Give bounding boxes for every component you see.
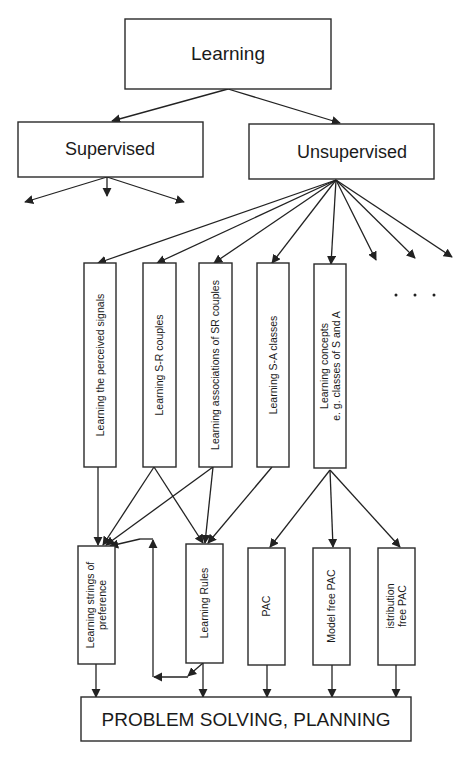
node-sr-couples: Learning S-R couples	[143, 263, 176, 467]
node-strings-preference: Learning strings of preference	[78, 546, 115, 664]
node-strings-preference-label-line1: Learning strings of	[84, 562, 96, 648]
node-strings-preference-label-line2: preference	[96, 580, 108, 630]
node-pac: PAC	[248, 548, 285, 665]
node-sa-classes: Learning S-A classes	[257, 263, 289, 467]
ellipsis	[395, 294, 436, 297]
node-concepts-label-line1: Learning concepts	[318, 323, 330, 409]
node-perceived-signals: Learning the perceived signals	[84, 263, 116, 467]
node-rules-label: Learning Rules	[198, 568, 210, 639]
node-model-free-pac-label: Model free PAC	[325, 569, 337, 643]
node-sa-classes-label: Learning S-A classes	[267, 316, 279, 415]
node-learning-label: Learning	[191, 43, 265, 64]
node-learning: Learning	[125, 19, 331, 89]
node-problem-solving-label: PROBLEM SOLVING, PLANNING	[102, 709, 391, 730]
node-pac-label: PAC	[260, 595, 272, 616]
learning-taxonomy-diagram: Learning Supervised Unsupervised Learnin…	[0, 0, 473, 757]
node-distribution-free-pac-label-line1: istribution	[384, 583, 396, 628]
node-sr-associations-label: Learning associations of SR couples	[209, 280, 221, 450]
node-concepts-label-line2: e. g. classes of S and A	[330, 311, 342, 421]
node-rules: Learning Rules	[186, 544, 223, 663]
node-distribution-free-pac: istribution free PAC	[378, 548, 415, 665]
node-problem-solving: PROBLEM SOLVING, PLANNING	[81, 697, 411, 741]
node-supervised: Supervised	[18, 122, 203, 177]
node-model-free-pac: Model free PAC	[313, 548, 350, 665]
node-concepts: Learning concepts e. g. classes of S and…	[314, 264, 346, 468]
node-sr-couples-label: Learning S-R couples	[153, 315, 165, 416]
node-unsupervised-label: Unsupervised	[297, 142, 407, 162]
node-sr-associations: Learning associations of SR couples	[199, 263, 232, 467]
node-unsupervised: Unsupervised	[249, 124, 434, 179]
node-perceived-signals-label: Learning the perceived signals	[94, 294, 106, 436]
node-distribution-free-pac-label-line2: free PAC	[396, 585, 408, 627]
node-supervised-label: Supervised	[65, 139, 155, 159]
